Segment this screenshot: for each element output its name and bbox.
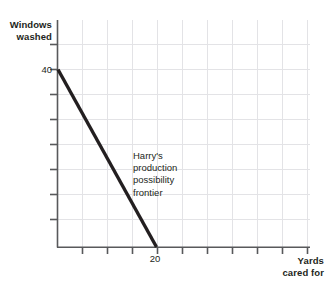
ppf-chart-figure: Windows washed Yards cared for 40 20 Har… [0,0,327,295]
grid-vertical [83,20,308,247]
y-axis-title: Windows washed [0,19,52,42]
x-tick-label-20: 20 [140,253,170,264]
x-axis-ticks [83,247,308,254]
y-tick-label-40: 40 [22,64,52,75]
ppf-annotation-label: Harry's production possibility frontier [133,150,177,199]
x-axis-title: Yards cared for [258,255,324,278]
grid-horizontal [57,45,310,220]
chart-canvas [0,0,327,295]
